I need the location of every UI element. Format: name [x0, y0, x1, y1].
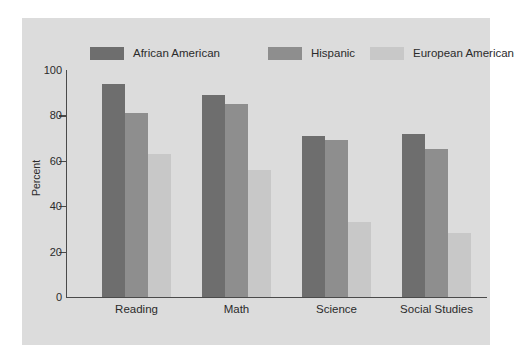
- bar-group: [402, 70, 471, 297]
- y-tick-label: 100: [44, 64, 62, 76]
- bar[interactable]: [402, 134, 425, 297]
- bar[interactable]: [348, 222, 371, 297]
- y-axis-title: Percent: [30, 160, 42, 196]
- y-tick-label: 80: [50, 109, 62, 121]
- x-axis-label: Math: [180, 303, 293, 315]
- x-axis-label: Science: [280, 303, 393, 315]
- legend-swatch-icon: [370, 47, 404, 60]
- chart-legend: African AmericanHispanicEuropean America…: [70, 44, 490, 62]
- y-tick-label: 40: [50, 200, 62, 212]
- bar[interactable]: [148, 154, 171, 297]
- bar-group: [302, 70, 371, 297]
- x-axis-line: [66, 297, 487, 298]
- y-axis-line: [66, 70, 67, 297]
- bar[interactable]: [202, 95, 225, 297]
- legend-entry[interactable]: European American: [370, 44, 514, 62]
- bar-group: [202, 70, 271, 297]
- x-axis-label: Social Studies: [380, 303, 493, 315]
- bar[interactable]: [325, 140, 348, 297]
- legend-label: Hispanic: [311, 47, 355, 60]
- plot-area: 020406080100 ReadingMathScienceSocial St…: [66, 70, 486, 297]
- x-axis-label: Reading: [80, 303, 193, 315]
- bar[interactable]: [248, 170, 271, 297]
- legend-entry[interactable]: Hispanic: [268, 44, 355, 62]
- legend-label: African American: [133, 47, 220, 60]
- bar[interactable]: [102, 84, 125, 297]
- legend-entry[interactable]: African American: [90, 44, 220, 62]
- bar[interactable]: [448, 233, 471, 297]
- bar[interactable]: [225, 104, 248, 297]
- legend-swatch-icon: [268, 47, 302, 60]
- bar-group: [102, 70, 171, 297]
- bar[interactable]: [125, 113, 148, 297]
- legend-label: European American: [413, 47, 514, 60]
- legend-swatch-icon: [90, 47, 124, 60]
- y-tick-label: 60: [50, 155, 62, 167]
- bar[interactable]: [425, 149, 448, 297]
- y-tick-label: 20: [50, 246, 62, 258]
- y-tick-label: 0: [56, 291, 62, 303]
- bar[interactable]: [302, 136, 325, 297]
